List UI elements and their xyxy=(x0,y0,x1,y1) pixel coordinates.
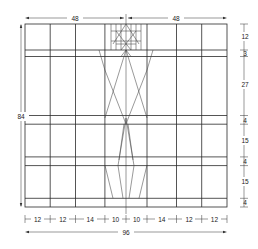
bottom-segment-dimension xyxy=(25,215,227,223)
bottom-seg-5: 10 xyxy=(133,216,141,223)
right-seg-2: 3 xyxy=(243,50,247,57)
bottom-seg-1: 12 xyxy=(34,216,42,223)
overall-width-label: 96 xyxy=(122,229,130,236)
bottom-seg-3: 14 xyxy=(87,216,95,223)
right-seg-6: 4 xyxy=(243,158,247,165)
right-seg-4: 4 xyxy=(243,117,247,124)
bottom-seg-2: 12 xyxy=(59,216,67,223)
right-seg-3: 27 xyxy=(241,81,249,88)
bottom-seg-4: 10 xyxy=(112,216,120,223)
right-seg-7: 15 xyxy=(241,178,249,185)
bottom-seg-7: 12 xyxy=(185,216,193,223)
right-seg-1: 12 xyxy=(241,33,249,40)
right-seg-8: 4 xyxy=(243,199,247,206)
top-right-half-label: 48 xyxy=(172,15,180,22)
bottom-seg-8: 12 xyxy=(211,216,219,223)
top-left-half-label: 48 xyxy=(71,15,79,22)
bottom-seg-6: 14 xyxy=(158,216,166,223)
right-seg-5: 15 xyxy=(241,137,249,144)
overall-height-label: 84 xyxy=(17,113,25,120)
pattern-diagram: 48 48 84 12 3 27 4 15 4 15 4 12 12 14 10… xyxy=(0,0,258,249)
